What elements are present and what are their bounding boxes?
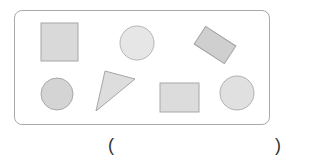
circle-shape — [220, 76, 254, 110]
close-parenthesis: ) — [275, 134, 281, 156]
rectangle-shape — [160, 83, 199, 112]
square-shape — [41, 23, 78, 61]
rotated-rectangle-shape — [194, 26, 236, 63]
circle-shape — [120, 26, 154, 60]
triangle-shape — [96, 71, 135, 111]
answer-blank[interactable] — [120, 136, 270, 156]
open-parenthesis: ( — [108, 134, 114, 156]
circle-shape — [41, 78, 73, 110]
